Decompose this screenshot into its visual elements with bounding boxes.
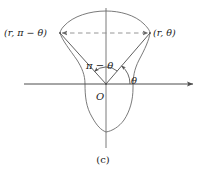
radial-line-theta: [106, 33, 150, 84]
polar-symmetry-figure: (r, π − θ) (r, θ) π − θ θ O (c): [0, 0, 206, 175]
point-marker-supplement: [59, 32, 61, 34]
label-angle-theta: θ: [131, 76, 137, 86]
angle-arc-theta: [122, 66, 131, 84]
polar-curve: [60, 11, 150, 132]
label-point-supplement: (r, π − θ): [4, 28, 47, 38]
point-marker-theta: [149, 32, 151, 34]
point-marker-origin: [105, 83, 107, 85]
figure-caption: (c): [0, 155, 206, 165]
label-origin: O: [96, 92, 104, 102]
radial-line-supplement: [60, 33, 106, 84]
label-point-theta: (r, θ): [153, 28, 176, 38]
label-angle-supplement: π − θ: [86, 61, 113, 71]
